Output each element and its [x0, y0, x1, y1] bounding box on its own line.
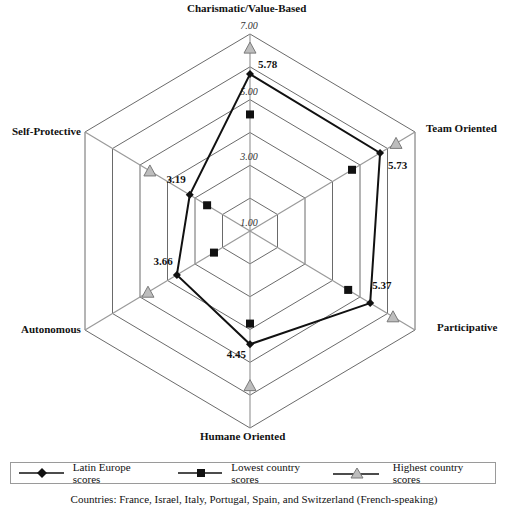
chart-footnote: Countries: France, Israel, Italy, Portug…: [0, 493, 508, 505]
diamond-marker-icon: [17, 467, 64, 479]
data-series: [142, 42, 402, 391]
square-marker-icon: [203, 201, 211, 209]
square-marker-icon: [246, 320, 254, 328]
data-label: 3.66: [154, 255, 174, 267]
data-label: 4.45: [227, 348, 247, 360]
data-label: 5.73: [388, 159, 408, 171]
scale-tick-label: 1.00: [240, 217, 258, 228]
triangle-marker-icon: [144, 165, 156, 176]
diamond-marker-icon: [366, 299, 374, 307]
square-marker-icon: [177, 467, 222, 479]
chart-legend: Latin Europe scores Lowest country score…: [10, 462, 496, 484]
scale-tick-label: 3.00: [239, 151, 258, 162]
square-marker-icon: [210, 249, 218, 257]
data-labels: 5.785.735.374.453.663.19: [154, 58, 408, 360]
triangle-marker-icon: [244, 42, 256, 53]
legend-label: Highest country scores: [393, 461, 487, 485]
data-label: 3.19: [167, 173, 187, 185]
axis-label-team-oriented: Team Oriented: [426, 122, 497, 134]
scale-tick-label: 7.00: [240, 20, 258, 31]
square-marker-icon: [246, 110, 254, 118]
triangle-marker-icon: [390, 137, 402, 148]
axis-label-humane-oriented: Humane Oriented: [200, 430, 285, 442]
data-label: 5.78: [258, 58, 278, 70]
legend-item-latin-europe: Latin Europe scores: [17, 461, 163, 485]
axis-label-charismatic: Charismatic/Value-Based: [187, 2, 306, 14]
triangle-marker-icon: [332, 467, 379, 479]
legend-item-highest: Highest country scores: [332, 461, 495, 485]
legend-item-lowest: Lowest country scores: [177, 461, 332, 485]
axis-label-self-protective: Self-Protective: [12, 125, 81, 137]
triangle-marker-icon: [142, 286, 154, 297]
radar-chart: 1.003.005.007.00 5.785.735.374.453.663.1…: [0, 0, 508, 455]
axis-label-autonomous: Autonomous: [21, 323, 81, 335]
legend-label: Latin Europe scores: [73, 461, 155, 485]
axis-label-participative: Participative: [437, 321, 497, 333]
data-label: 5.37: [372, 279, 392, 291]
square-marker-icon: [348, 166, 356, 174]
triangle-marker-icon: [387, 311, 399, 322]
square-marker-icon: [344, 286, 352, 294]
legend-label: Lowest country scores: [231, 461, 324, 485]
diamond-marker-icon: [186, 191, 194, 199]
triangle-marker-icon: [244, 380, 256, 391]
